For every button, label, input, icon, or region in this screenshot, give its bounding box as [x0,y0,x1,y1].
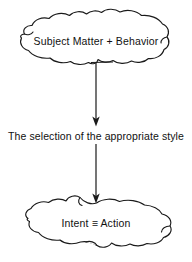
text-label-selection-of-style: The selection of the appropriate style [0,131,192,142]
cloud-label-intent-action: Intent ≡ Action [0,218,192,229]
flow-diagram-canvas: Subject Matter + Behavior The selection … [0,0,192,262]
cloud-label-subject-matter-behavior: Subject Matter + Behavior [0,36,192,47]
connector-arrow-top-anchor [91,62,113,63]
